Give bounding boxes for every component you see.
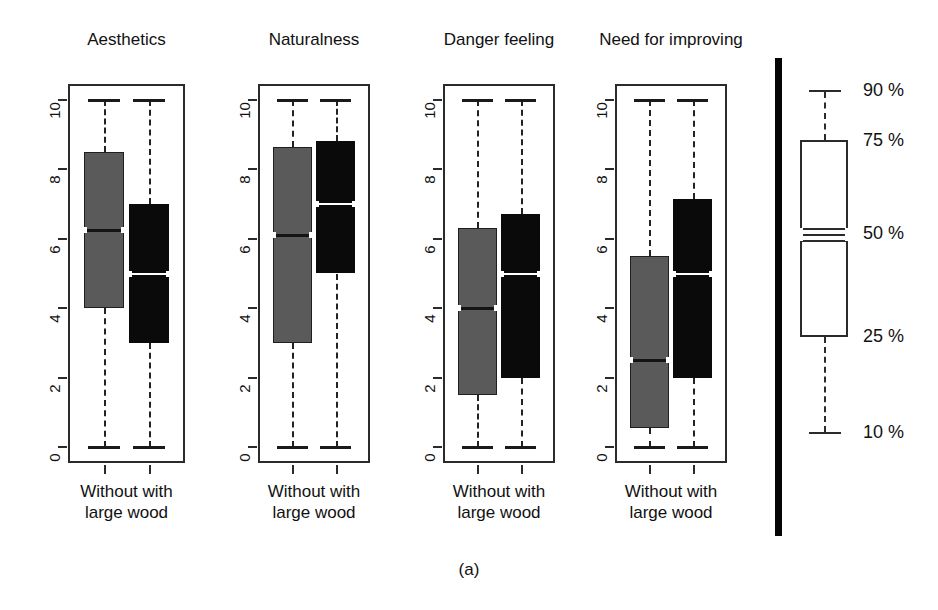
legend-label-10: 10 % [863,422,904,443]
whisker-lower [649,428,651,447]
y-axis-tick-label: 0 [593,446,610,470]
x-label-line-2: large wood [587,502,755,523]
boxplot-box [673,199,712,378]
legend-label-50: 50 % [863,223,904,244]
median-notch [672,271,676,277]
y-axis-tick-label: 6 [593,237,610,261]
whisker-lower [693,378,695,448]
median-notch [666,357,670,363]
legend-upper-whisker [824,92,826,140]
x-axis-tick [649,465,651,474]
legend-lower-cap [809,432,841,434]
legend-lower-whisker [824,337,826,432]
legend-label-90: 90 % [863,80,904,101]
legend-label-75: 75 % [863,130,904,151]
figure-caption: (a) [0,560,938,580]
panel-title: Need for improving [590,30,752,50]
whisker-cap-lower [634,446,665,449]
whisker-cap-lower [677,446,708,449]
y-axis-tick-label: 8 [593,168,610,192]
legend-notch-right [845,228,850,241]
median-line [631,359,668,362]
whisker-upper [649,100,651,256]
whisker-cap-upper [634,99,665,102]
legend-box-lower [800,240,848,337]
legend-median-line-2 [803,234,845,236]
legend-box-upper [800,140,848,230]
y-axis-tick-label: 10 [593,98,610,122]
y-axis-tick-label: 2 [593,376,610,400]
median-notch [709,271,713,277]
x-axis-tick [693,465,695,474]
boxplot-legend: 90 % 75 % 50 % 25 % 10 % [795,60,938,500]
x-label-line-1: Without with [587,481,755,502]
median-notch [629,357,633,363]
whisker-cap-upper [677,99,708,102]
whisker-upper [693,100,695,199]
x-axis-group-labels: Without withlarge wood [587,481,755,523]
legend-label-25: 25 % [863,326,904,347]
median-line [674,273,711,275]
panel-divider [775,58,782,536]
y-axis-tick-label: 4 [593,307,610,331]
boxplot-box [630,256,669,428]
